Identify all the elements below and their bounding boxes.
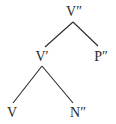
edge-vdoubleprime-pdoubleprime <box>73 22 98 46</box>
node-p-double-bar: P″ <box>94 50 108 64</box>
node-v-double-bar: V″ <box>66 5 82 19</box>
node-n-double-bar: N″ <box>70 106 86 120</box>
edge-vprime-ndoubleprime <box>42 66 73 103</box>
edge-vprime-v <box>13 66 42 103</box>
edge-vdoubleprime-vprime <box>45 22 73 47</box>
syntax-tree-diagram: V″ V′ P″ V N″ <box>0 0 116 124</box>
node-v: V <box>7 106 17 120</box>
node-v-bar: V′ <box>35 50 48 64</box>
